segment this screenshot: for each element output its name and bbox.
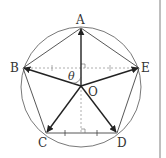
vector-OD: [81, 86, 116, 132]
label-theta: θ: [68, 70, 75, 83]
right-angle-CD: [81, 129, 85, 133]
vector-OC: [47, 86, 81, 132]
label-C: C: [38, 136, 47, 150]
diagram-canvas: A B C D E O θ: [0, 0, 166, 158]
label-B: B: [10, 61, 19, 75]
vector-OE: [81, 68, 138, 86]
label-E: E: [141, 61, 150, 75]
pentagon-diagram: A B C D E O θ: [0, 0, 166, 158]
label-D: D: [117, 136, 127, 150]
label-A: A: [75, 13, 85, 27]
label-O: O: [88, 85, 98, 99]
